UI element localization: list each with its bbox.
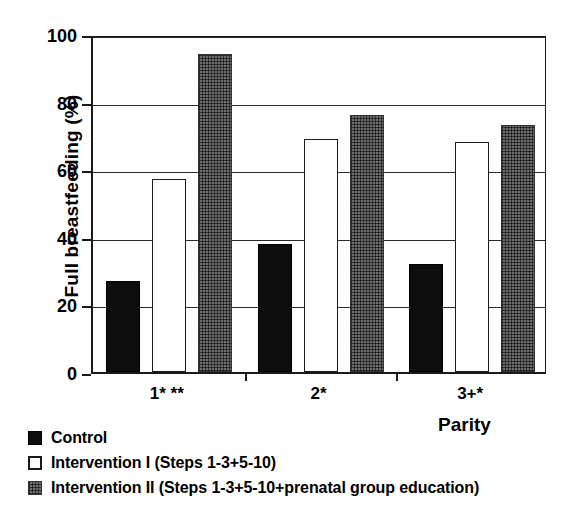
bar-intervention-2-group-1 <box>198 54 232 372</box>
legend-item-control: Control <box>28 425 548 450</box>
y-axis-tick-mark <box>82 306 91 308</box>
gridline <box>93 37 545 38</box>
legend-label: Intervention II (Steps 1-3+5-10+prenatal… <box>51 479 479 497</box>
legend-item-intervention-2: Intervention II (Steps 1-3+5-10+prenatal… <box>28 475 548 500</box>
legend: ControlIntervention I (Steps 1-3+5-10)In… <box>28 425 548 500</box>
bar-control-group-3 <box>409 264 443 372</box>
y-axis-tick-label: 100 <box>17 27 77 45</box>
x-axis-tick-mark <box>245 372 247 381</box>
bar-intervention-1-group-3 <box>455 142 489 372</box>
y-axis-tick-mark <box>82 239 91 241</box>
x-axis-category-label: 1* ** <box>150 384 184 404</box>
bar-control-group-2 <box>258 244 292 372</box>
legend-swatch-icon <box>28 481 42 495</box>
x-axis-category-label: 3+* <box>457 384 483 404</box>
y-axis-tick-label: 80 <box>17 95 77 113</box>
x-axis-tick-mark <box>396 372 398 381</box>
bar-intervention-1-group-2 <box>304 139 338 372</box>
legend-label: Control <box>51 429 107 447</box>
legend-swatch-icon <box>28 431 42 445</box>
y-axis-tick-label: 20 <box>17 297 77 315</box>
bar-intervention-2-group-3 <box>501 125 535 372</box>
y-axis-tick-label: 40 <box>17 230 77 248</box>
legend-label: Intervention I (Steps 1-3+5-10) <box>51 454 276 472</box>
y-axis-tick-mark <box>82 374 91 376</box>
y-axis-tick-mark <box>82 171 91 173</box>
legend-item-intervention-1: Intervention I (Steps 1-3+5-10) <box>28 450 548 475</box>
bar-chart-figure: Full breastfeeding (%) 020406080100 1* *… <box>0 0 571 519</box>
bar-control-group-1 <box>106 281 140 372</box>
plot-area <box>91 36 546 374</box>
y-axis-tick-label: 0 <box>17 365 77 383</box>
x-axis-category-label: 2* <box>310 384 326 404</box>
legend-swatch-icon <box>28 456 42 470</box>
y-axis-tick-label: 60 <box>17 162 77 180</box>
gridline <box>93 105 545 106</box>
y-axis-tick-mark <box>82 104 91 106</box>
bar-intervention-1-group-1 <box>152 179 186 372</box>
bar-intervention-2-group-2 <box>350 115 384 372</box>
y-axis-tick-mark <box>82 36 91 38</box>
